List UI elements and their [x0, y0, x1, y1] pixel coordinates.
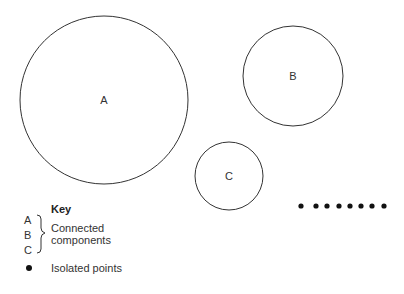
key-letter-a: A [24, 214, 31, 226]
key-isolated-label: Isolated points [51, 262, 122, 274]
isolated-point [313, 203, 318, 208]
key-brace-icon [37, 215, 45, 253]
isolated-point [358, 203, 363, 208]
key-connected-label-2: components [51, 234, 111, 246]
component-c-label: C [225, 170, 233, 182]
key-letter-c: C [24, 244, 32, 256]
isolated-point-icon [26, 265, 32, 271]
component-a-label: A [100, 94, 108, 106]
isolated-point [336, 203, 341, 208]
isolated-point [381, 203, 386, 208]
diagram-canvas: ABC [0, 0, 404, 294]
component-b-label: B [289, 70, 296, 82]
key-letter-b: B [24, 229, 31, 241]
isolated-point [298, 203, 303, 208]
isolated-point [369, 203, 374, 208]
key-connected-label-1: Connected [51, 222, 104, 234]
isolated-point [324, 203, 329, 208]
key-title: Key [51, 203, 71, 215]
isolated-point [347, 203, 352, 208]
